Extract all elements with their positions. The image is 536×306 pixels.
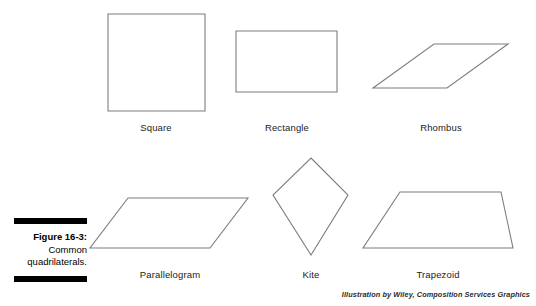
shape-label-trapezoid: Trapezoid — [416, 269, 459, 280]
caption-rule-top — [14, 218, 87, 224]
figure-caption-line-2: Common — [0, 244, 87, 257]
shape-trapezoid — [363, 192, 513, 248]
shape-label-rectangle: Rectangle — [265, 122, 309, 133]
shape-parallelogram — [90, 198, 248, 248]
figure-caption-block: Figure 16-3: Common quadrilaterals. — [0, 218, 90, 282]
figure-caption-text: Figure 16-3: Common quadrilaterals. — [0, 231, 90, 269]
figure-caption-line-3: quadrilaterals. — [0, 256, 87, 269]
figure-number: Figure 16-3: — [0, 231, 87, 244]
shape-label-parallelogram: Parallelogram — [140, 269, 201, 280]
shape-square — [108, 14, 205, 111]
shape-label-square: Square — [140, 122, 172, 133]
figure-illustration: Square Rectangle Rhombus Parallelogram K… — [0, 0, 536, 306]
shape-kite — [273, 158, 348, 255]
shape-label-rhombus: Rhombus — [420, 122, 462, 133]
caption-rule-bottom — [14, 276, 87, 282]
shape-rectangle — [236, 31, 337, 92]
illustration-credit: Illustration by Wiley, Composition Servi… — [342, 290, 530, 299]
shape-label-kite: Kite — [303, 269, 320, 280]
shape-rhombus — [373, 44, 508, 88]
